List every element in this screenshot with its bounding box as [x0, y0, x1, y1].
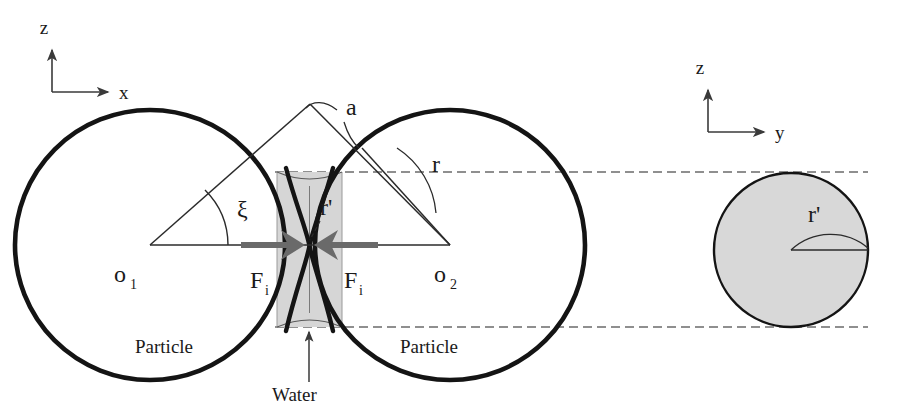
particle-radius-label-r: r	[432, 151, 440, 177]
force-left-symbol: F	[250, 267, 263, 293]
particle-right-caption: Particle	[400, 336, 458, 357]
capillary-bridge-figure: z x z y	[0, 0, 899, 410]
leader-line-a-down	[344, 122, 359, 148]
o1-subscript: 1	[130, 277, 137, 292]
force-left-subscript: i	[265, 283, 269, 298]
left-coordinate-axes: z x	[40, 17, 129, 103]
particle-right-center-label: o 2	[434, 261, 457, 292]
bridge-cross-section-circle	[714, 173, 868, 327]
right-axis-z-label: z	[696, 57, 704, 78]
left-axis-x-label: x	[119, 82, 129, 103]
right-axis-y-label: y	[775, 122, 785, 143]
half-separation-label-a: a	[346, 94, 357, 120]
particle-left-caption: Particle	[135, 336, 193, 357]
force-right-label: F i	[344, 267, 363, 298]
water-caption: Water	[272, 384, 318, 405]
leader-line-a-left	[306, 103, 337, 110]
o2-subscript: 2	[450, 277, 457, 292]
figure-canvas: z x z y	[0, 0, 899, 410]
particle-left-center-label: o 1	[114, 261, 137, 292]
o1-base: o	[114, 261, 126, 287]
o2-base: o	[434, 261, 446, 287]
left-axis-z-label: z	[40, 17, 48, 38]
force-right-symbol: F	[344, 267, 357, 293]
angle-arc-xi	[205, 190, 228, 245]
meniscus-radius-label-r-prime: r'	[320, 194, 332, 220]
force-left-shaft	[241, 242, 289, 248]
force-right-shaft	[330, 242, 378, 248]
force-left-label: F i	[250, 267, 269, 298]
right-coordinate-axes: z y	[696, 57, 785, 143]
half-filling-angle-xi: ξ	[237, 196, 248, 222]
force-right-subscript: i	[359, 283, 363, 298]
radius-arc-r	[397, 148, 436, 213]
cross-section-radius-label: r'	[808, 201, 820, 227]
